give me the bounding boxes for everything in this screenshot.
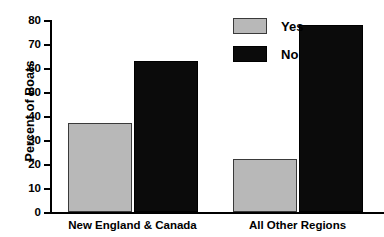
y-tick-label: 20 [28, 158, 41, 170]
y-tick-mark [44, 164, 51, 166]
bar-no-0 [134, 61, 198, 212]
y-tick-mark [44, 188, 51, 190]
y-tick-mark [44, 20, 51, 22]
y-tick-label: 30 [28, 134, 41, 146]
x-axis-category-label: New England & Canada [68, 219, 196, 231]
legend-item-no[interactable]: No [233, 46, 298, 62]
bar-yes-0 [68, 123, 132, 212]
y-tick-mark [44, 44, 51, 46]
y-tick-mark [44, 212, 51, 214]
legend-label: Yes [281, 19, 303, 34]
y-tick-mark [44, 140, 51, 142]
x-axis-category-label: All Other Regions [249, 219, 346, 231]
y-tick-mark [44, 92, 51, 94]
legend-item-yes[interactable]: Yes [233, 18, 303, 34]
y-tick-label: 0 [35, 206, 41, 218]
bar-chart: Percent of Boats 01020304050607080 New E… [0, 0, 384, 237]
gray-swatch-icon [233, 18, 267, 34]
y-tick-mark [44, 116, 51, 118]
black-swatch-icon [233, 46, 267, 62]
bar-yes-1 [233, 159, 297, 212]
legend-label: No [281, 47, 298, 62]
y-tick-mark [44, 68, 51, 70]
y-tick-label: 70 [28, 38, 41, 50]
y-tick-label: 40 [28, 110, 41, 122]
y-tick-label: 10 [28, 182, 41, 194]
y-tick-label: 60 [28, 62, 41, 74]
x-axis-line [50, 212, 384, 214]
y-tick-label: 50 [28, 86, 41, 98]
plot-area: 01020304050607080 New England & CanadaAl… [50, 20, 380, 212]
y-tick-label: 80 [28, 14, 41, 26]
bar-no-1 [299, 25, 363, 212]
